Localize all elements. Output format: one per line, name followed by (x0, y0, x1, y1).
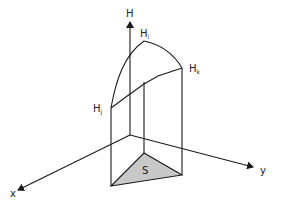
y-axis-label: y (260, 165, 266, 176)
point-hk-label: Hk (189, 63, 201, 75)
curve-hj-hk (111, 68, 182, 108)
curve-hi-hk (144, 41, 182, 68)
prism-volume-diagram: H x y S Hi Hj Hk (0, 0, 283, 206)
x-axis (18, 135, 130, 190)
point-hj-label: Hj (93, 103, 103, 116)
curve-hj-hi (111, 41, 144, 108)
x-axis-label: x (10, 188, 16, 199)
area-s-label: S (142, 165, 148, 176)
point-hi-label: Hi (140, 28, 150, 40)
h-axis-label: H (126, 8, 134, 19)
